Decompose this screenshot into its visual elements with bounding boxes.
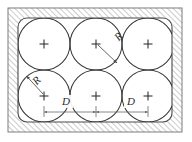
figure-container: R R D D <box>0 0 192 142</box>
dimension-label-d-left: D <box>61 95 70 107</box>
dimension-label-d-right: D <box>126 95 135 107</box>
packed-circles-diagram: R R D D <box>0 0 192 142</box>
